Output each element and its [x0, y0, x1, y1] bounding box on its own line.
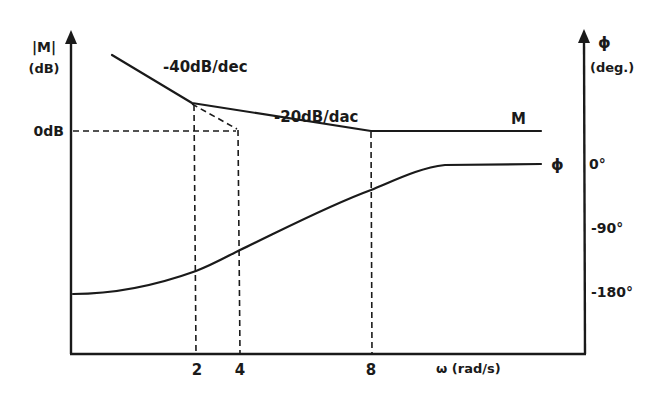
phase-axis-arrow-icon: [578, 29, 590, 43]
phase-axis-unit: (deg.): [590, 60, 634, 75]
phase-tick-0: 0°: [589, 156, 606, 172]
x-tick-2: 2: [192, 361, 202, 379]
bode-plot-diagram: |M| (dB) 0dB 2 4 8 ω (rad/s) ϕ (deg.) 0°…: [0, 0, 657, 398]
magnitude-axis-label: |M|: [32, 39, 56, 56]
phase-axis-label: ϕ: [598, 33, 611, 52]
magnitude-curve-label: M: [511, 110, 526, 128]
zero-db-label: 0dB: [34, 123, 64, 139]
guide-w4: [238, 130, 240, 354]
phase-axis: ϕ (deg.) 0° -90° -180°: [578, 29, 634, 354]
magnitude-curve: -40dB/dec -20dB/dac M: [112, 55, 541, 131]
magnitude-axis: |M| (dB) 0dB: [28, 30, 77, 354]
phase-curve: ϕ: [73, 155, 564, 294]
phase-tick-neg90: -90°: [591, 220, 623, 236]
magnitude-axis-arrow-icon: [65, 30, 77, 44]
x-tick-8: 8: [366, 361, 376, 379]
dashed-guides: [73, 104, 372, 354]
slope-extension-line: [192, 104, 237, 129]
frequency-axis: 2 4 8 ω (rad/s): [70, 354, 586, 379]
guide-w2: [194, 105, 196, 354]
phase-tick-neg180: -180°: [591, 284, 633, 300]
x-tick-4: 4: [235, 361, 245, 379]
slope-40-label: -40dB/dec: [163, 58, 248, 76]
magnitude-axis-unit: (dB): [28, 61, 59, 76]
phase-curve-label: ϕ: [551, 155, 564, 174]
frequency-axis-label: ω (rad/s): [436, 361, 501, 376]
slope-20-label: -20dB/dac: [274, 108, 359, 126]
guide-w8: [371, 132, 372, 354]
